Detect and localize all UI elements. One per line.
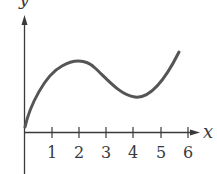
x-tick-label-4: 4 <box>128 143 138 162</box>
x-axis-label: x <box>203 121 213 142</box>
x-tick-label-1: 1 <box>47 143 57 162</box>
x-tick-label-3: 3 <box>101 143 111 162</box>
x-tick-label-2: 2 <box>74 143 84 162</box>
y-axis-label: y <box>18 0 30 9</box>
x-axis-arrow-icon <box>190 130 200 136</box>
y-axis-arrow-icon <box>22 15 28 25</box>
function-curve <box>25 52 179 127</box>
function-graph: y x 1 2 3 4 5 6 <box>0 0 217 174</box>
x-tick-label-6: 6 <box>183 143 193 162</box>
x-tick-label-5: 5 <box>156 143 166 162</box>
